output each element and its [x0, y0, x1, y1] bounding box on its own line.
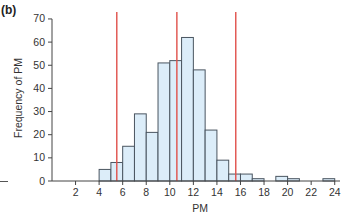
x-tick-label: 24	[329, 186, 341, 198]
histogram-bar	[146, 132, 158, 181]
x-tick-label: 2	[73, 186, 79, 198]
histogram-bar	[99, 169, 111, 181]
x-tick-label: 22	[305, 186, 317, 198]
x-tick-label: 18	[258, 186, 270, 198]
histogram-bar	[182, 37, 194, 181]
y-tick-label: 40	[33, 82, 45, 94]
x-tick-label: 8	[143, 186, 149, 198]
histogram-chart: 01020304050607024681012141618202224	[0, 0, 349, 215]
x-tick-label: 4	[96, 186, 102, 198]
y-tick-label: 20	[33, 128, 45, 140]
y-tick-label: 50	[33, 59, 45, 71]
x-tick-label: 14	[211, 186, 223, 198]
histogram-bar	[229, 174, 241, 181]
y-tick-label: 30	[33, 105, 45, 117]
histogram-bar	[134, 114, 146, 181]
histogram-bar	[217, 160, 229, 181]
y-tick-label: 60	[33, 36, 45, 48]
y-tick-label: 0	[39, 175, 45, 187]
histogram-bar	[170, 61, 182, 181]
histogram-bar	[276, 176, 288, 181]
x-tick-label: 6	[120, 186, 126, 198]
histogram-bars	[99, 37, 335, 181]
histogram-bar	[123, 146, 135, 181]
x-tick-label: 16	[235, 186, 247, 198]
histogram-bar	[158, 63, 170, 181]
y-tick-label: 10	[33, 151, 45, 163]
histogram-bar	[193, 70, 205, 181]
x-tick-label: 12	[188, 186, 200, 198]
histogram-bar	[240, 174, 252, 181]
y-tick-label: 70	[33, 12, 45, 24]
x-tick-label: 20	[282, 186, 294, 198]
x-tick-label: 10	[164, 186, 176, 198]
histogram-bar	[205, 130, 217, 181]
